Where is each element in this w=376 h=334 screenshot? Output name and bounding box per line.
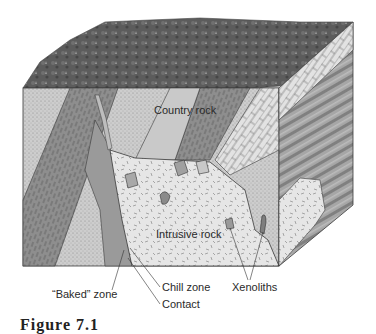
label-baked-zone: “Baked” zone xyxy=(52,288,117,300)
label-intrusive-rock: Intrusive rock xyxy=(156,228,221,240)
label-xenoliths: Xenoliths xyxy=(232,281,277,293)
label-contact: Contact xyxy=(162,298,200,310)
figure-caption: Figure 7.1 xyxy=(20,316,99,334)
label-chill-zone: Chill zone xyxy=(162,281,210,293)
label-country-rock: Country rock xyxy=(154,104,216,116)
